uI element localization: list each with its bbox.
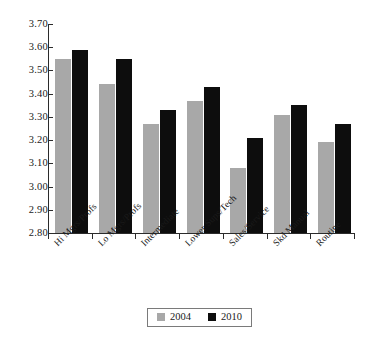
y-axis-tick-mark	[48, 47, 53, 48]
y-axis-tick-mark	[48, 210, 53, 211]
y-axis-tick-mark	[48, 163, 53, 164]
x-axis-tick-mark	[354, 234, 355, 239]
bar-chart: 3.703.603.503.403.303.203.103.002.902.80…	[0, 0, 367, 340]
legend-label: 2004	[170, 312, 191, 322]
y-axis-tick-mark	[48, 94, 53, 95]
y-axis-tick-label: 3.20	[6, 135, 48, 145]
bar-group	[143, 24, 176, 233]
y-axis-tick-mark	[48, 24, 53, 25]
y-axis: 3.703.603.503.403.303.203.103.002.902.80	[0, 0, 48, 340]
bar-2004	[99, 84, 115, 233]
legend-item[interactable]: 2010	[208, 312, 242, 322]
x-axis-tick-mark	[179, 234, 180, 239]
bar-2010	[335, 124, 351, 233]
x-axis-tick-mark	[48, 234, 49, 239]
bar-2004	[274, 115, 290, 233]
legend-item[interactable]: 2004	[157, 312, 191, 322]
y-axis-tick-mark	[48, 117, 53, 118]
y-axis-tick-label: 3.30	[6, 112, 48, 122]
legend-label: 2010	[221, 312, 242, 322]
x-axis-tick-mark	[223, 234, 224, 239]
x-axis-tick-mark	[267, 234, 268, 239]
legend-swatch-2004	[157, 313, 165, 321]
y-axis-tick-label: 3.60	[6, 42, 48, 52]
bar-group	[274, 24, 307, 233]
bar-2004	[55, 59, 71, 233]
bar-2004	[187, 101, 203, 233]
y-axis-tick-mark	[48, 187, 53, 188]
legend-swatch-2010	[208, 313, 216, 321]
chart-legend: 20042010	[147, 308, 252, 327]
y-axis-tick-mark	[48, 140, 53, 141]
y-axis-tick-label: 3.50	[6, 65, 48, 75]
bar-2004	[318, 142, 334, 233]
bar-2004	[143, 124, 159, 233]
y-axis-tick-label: 3.00	[6, 182, 48, 192]
bar-group	[187, 24, 220, 233]
x-axis-tick-mark	[135, 234, 136, 239]
plot-area	[48, 24, 354, 233]
x-axis-tick-mark	[92, 234, 93, 239]
y-axis-tick-label: 3.10	[6, 158, 48, 168]
x-axis-tick-mark	[310, 234, 311, 239]
y-axis-tick-label: 3.70	[6, 19, 48, 29]
bar-group	[99, 24, 132, 233]
bar-group	[55, 24, 88, 233]
y-axis-tick-label: 2.80	[6, 228, 48, 238]
y-axis-tick-label: 3.40	[6, 89, 48, 99]
bar-group	[318, 24, 351, 233]
y-axis-tick-label: 2.90	[6, 205, 48, 215]
y-axis-tick-mark	[48, 70, 53, 71]
